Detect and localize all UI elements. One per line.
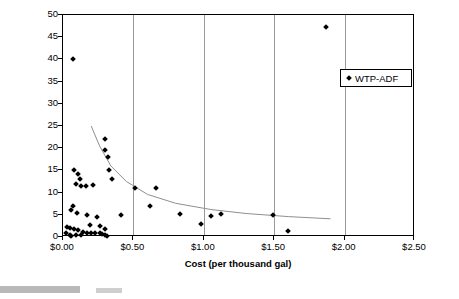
x-tick-label: $1.50 [251, 242, 295, 252]
x-tick-label: $0.50 [110, 242, 154, 252]
x-tick-mark [344, 236, 345, 240]
x-tick-mark [62, 236, 63, 240]
legend: WTP-ADF [340, 69, 412, 87]
scan-artifact-secondary [96, 288, 122, 293]
x-tick-labels: $0.00$0.50$1.00$1.50$2.00$2.50 [0, 0, 459, 299]
x-tick-label: $1.00 [181, 242, 225, 252]
legend-entry-label: WTP-ADF [355, 73, 398, 84]
x-tick-mark [273, 236, 274, 240]
legend-marker-icon [346, 75, 352, 81]
x-tick-label: $0.00 [40, 242, 84, 252]
x-tick-mark [413, 236, 414, 240]
x-axis-title: Cost (per thousand gal) [62, 258, 414, 269]
x-tick-label: $2.00 [322, 242, 366, 252]
x-tick-mark [203, 236, 204, 240]
x-tick-mark [132, 236, 133, 240]
scatter-chart: System Size (WTP FLows - MGD) 0510152025… [0, 0, 459, 299]
x-tick-label: $2.50 [392, 242, 436, 252]
scan-artifact [0, 286, 80, 293]
